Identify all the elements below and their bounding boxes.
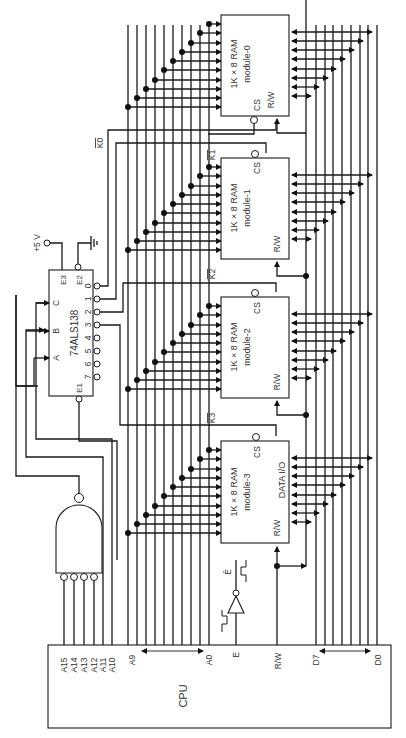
- cpu-label: CPU: [177, 684, 189, 707]
- pin-a0: A0: [204, 655, 214, 666]
- pin-a10: A10: [107, 657, 117, 672]
- pin-d7: D7: [311, 654, 321, 665]
- pin-a9: A9: [127, 655, 137, 666]
- ram2-rw: R/W: [272, 374, 282, 391]
- ram1-name: module-1: [242, 189, 252, 227]
- decoder-e1: E1: [75, 383, 84, 393]
- decoder-out-0: 0: [83, 283, 93, 288]
- cs-label-k0: K0: [95, 138, 105, 149]
- decoder-part-label: 74ALS138: [69, 309, 80, 356]
- cs-label-k3: K3: [207, 413, 217, 424]
- pin-a13: A13: [79, 657, 89, 672]
- decoder-out-1: 1: [83, 296, 93, 301]
- decoder-out-3: 3: [83, 322, 93, 327]
- ram0-rw: R/W: [266, 92, 276, 109]
- schematic-canvas: CPU A15 A14 A13 A12 A11 A10 A9 A0 E R/W …: [0, 0, 406, 738]
- ram0-name: module-0: [242, 45, 252, 83]
- decoder-input-a: A: [51, 355, 61, 361]
- cs-label-k2: K2: [207, 269, 217, 280]
- ram0-title: 1K × 8 RAM: [229, 40, 239, 89]
- decoder-out-6: 6: [83, 361, 93, 366]
- decoder-e3: E3: [59, 275, 68, 285]
- decoder-out-2: 2: [83, 309, 93, 314]
- ram1-rw: R/W: [272, 236, 282, 253]
- ram2-name: module-2: [242, 328, 252, 366]
- ram3-cs: CS: [252, 446, 262, 458]
- address-bus-a9-a0: [128, 25, 209, 645]
- pin-e: E: [231, 652, 241, 658]
- pin-a14: A14: [69, 657, 79, 672]
- decoder-out-7: 7: [83, 374, 93, 379]
- ram2-cs: CS: [252, 302, 262, 314]
- ram1-cs: CS: [252, 162, 262, 174]
- ram3-rw: R/W: [272, 520, 282, 537]
- pin-rw: R/W: [273, 653, 283, 670]
- address-lines-upper: [64, 578, 94, 645]
- vcc-label: +5 V: [32, 234, 42, 252]
- decoder-out-4: 4: [83, 335, 93, 340]
- pin-a15: A15: [59, 657, 69, 672]
- decoder-input-b: B: [51, 328, 61, 334]
- pin-d0: D0: [373, 654, 383, 665]
- ram3-name: module-3: [242, 473, 252, 511]
- decoder-input-c: C: [51, 300, 61, 306]
- cs-label-k1: K1: [207, 150, 217, 161]
- inverter-output-label: Ē: [223, 569, 233, 575]
- cpu-block: [48, 645, 391, 728]
- decoder-out-5: 5: [83, 348, 93, 353]
- ram3-data-io: DATA I/O: [277, 462, 287, 499]
- data-bus: [316, 25, 377, 645]
- ram0-cs: CS: [252, 99, 262, 111]
- ram2-title: 1K × 8 RAM: [229, 323, 239, 372]
- ram3-title: 1K × 8 RAM: [229, 468, 239, 517]
- decoder-e2: E2: [75, 275, 84, 285]
- ram1-title: 1K × 8 RAM: [229, 184, 239, 233]
